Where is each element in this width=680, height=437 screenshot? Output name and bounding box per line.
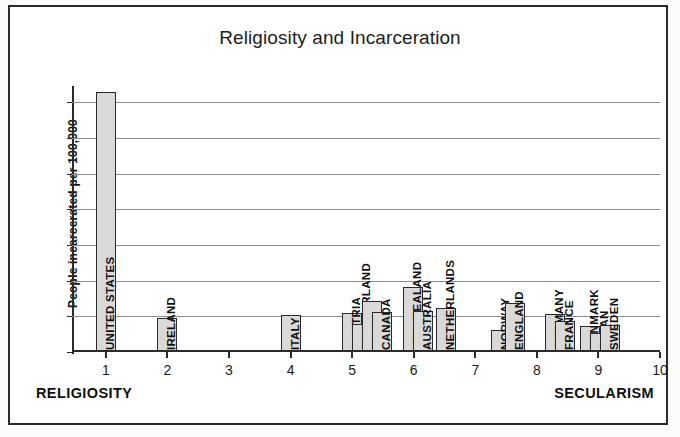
bar: IRELAND <box>157 318 177 351</box>
x-tick-label: 6 <box>399 362 429 378</box>
gridline <box>72 174 660 175</box>
bar: UNITED STATES <box>96 92 116 351</box>
x-tick-mark <box>166 352 168 358</box>
bar: NETHERLANDS <box>436 308 456 351</box>
gridline <box>72 245 660 246</box>
bar-label: UNITED STATES <box>104 256 116 350</box>
x-tick-label: 8 <box>522 362 552 378</box>
x-tick-mark <box>536 352 538 358</box>
y-tick-mark <box>67 102 72 103</box>
plot-area: People incarcerated per 100,000 70060050… <box>72 88 660 352</box>
x-tick-label: 4 <box>276 362 306 378</box>
bar-label: SWEDEN <box>608 298 620 350</box>
y-axis-line <box>72 86 74 354</box>
x-tick-mark <box>105 352 107 358</box>
x-tick-mark <box>290 352 292 358</box>
x-tick-mark <box>597 352 599 358</box>
y-tick-mark <box>67 209 72 210</box>
y-tick-mark <box>67 174 72 175</box>
x-tick-label: 3 <box>214 362 244 378</box>
bar: SWEDEN <box>600 325 620 351</box>
x-tick-mark <box>659 352 661 358</box>
x-tick-label: 5 <box>337 362 367 378</box>
bar: CANADA <box>372 312 392 351</box>
gridline <box>72 138 660 139</box>
x-tick-mark <box>413 352 415 358</box>
x-tick-label: 9 <box>583 362 613 378</box>
y-tick-mark <box>67 138 72 139</box>
x-tick-mark <box>474 352 476 358</box>
gridline <box>72 102 660 103</box>
bar-label: ENGLAND <box>513 291 525 350</box>
y-tick-mark <box>67 316 72 317</box>
x-tick-mark <box>351 352 353 358</box>
bar: ENGLAND <box>505 303 525 351</box>
y-tick-mark <box>67 281 72 282</box>
y-tick-mark <box>67 352 72 353</box>
y-tick-mark <box>67 245 72 246</box>
x-tick-label: 1 <box>91 362 121 378</box>
bar-label: NETHERLANDS <box>444 260 456 350</box>
chart-figure: Religiosity and Incarceration People inc… <box>0 0 680 437</box>
bar-label: IRELAND <box>165 297 177 350</box>
axis-annotation-secularism: SECULARISM <box>554 385 654 401</box>
bar-label: FRANCE <box>562 300 574 350</box>
axis-annotation-religiosity: RELIGIOSITY <box>36 385 132 401</box>
bar: FRANCE <box>555 321 575 351</box>
chart-title: Religiosity and Incarceration <box>0 27 680 49</box>
bar: AUSTRALIA <box>413 311 433 351</box>
x-tick-mark <box>228 352 230 358</box>
bar-label: ITALY <box>288 317 300 350</box>
x-tick-label: 2 <box>152 362 182 378</box>
x-tick-label: 10 <box>645 362 675 378</box>
x-tick-label: 7 <box>460 362 490 378</box>
gridline <box>72 281 660 282</box>
gridline <box>72 209 660 210</box>
bar: ITALY <box>281 315 301 351</box>
